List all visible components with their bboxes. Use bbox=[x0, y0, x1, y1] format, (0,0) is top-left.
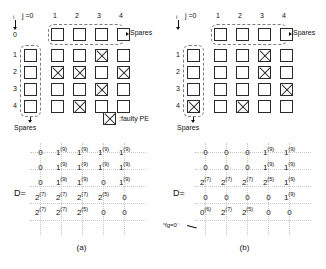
pe-cell[interactable] bbox=[51, 83, 64, 96]
matrix-cell: 1(9) bbox=[114, 174, 135, 189]
pe-cell[interactable] bbox=[280, 100, 293, 113]
matrix-cell: 0 bbox=[216, 189, 237, 204]
pe-cell[interactable] bbox=[73, 49, 86, 62]
col-header-1: 1 bbox=[53, 12, 57, 19]
matrix-cell: 2(7) bbox=[30, 189, 51, 204]
col-header-3: 3 bbox=[97, 12, 101, 19]
spares-row-label: Spares bbox=[130, 29, 152, 36]
pe-cell[interactable] bbox=[258, 28, 271, 41]
pe-cell[interactable] bbox=[51, 100, 64, 113]
pe-cell[interactable] bbox=[236, 28, 249, 41]
matrix-cell: 0 bbox=[216, 144, 237, 159]
caption-b: (b) bbox=[163, 243, 326, 252]
pe-cell-faulty[interactable] bbox=[258, 66, 271, 79]
pe-cell-faulty[interactable] bbox=[236, 100, 249, 113]
matrix-cell: 1(9) bbox=[51, 174, 72, 189]
pe-cell[interactable] bbox=[117, 49, 130, 62]
matrix-cell: 2(7) bbox=[237, 174, 258, 189]
spares-col-label: Spares bbox=[177, 124, 199, 131]
pe-cell[interactable] bbox=[24, 100, 37, 113]
matrix-cell: 1(9) bbox=[279, 159, 300, 174]
matrix-cell: 0 bbox=[30, 159, 51, 174]
matrix-table-b: 0 0 0 1(9) 1(9) 0 0 0 1(9) 1(9) 2(7) 2(7… bbox=[195, 144, 300, 219]
pe-cell[interactable] bbox=[214, 49, 227, 62]
pe-cell[interactable] bbox=[280, 66, 293, 79]
pe-cell[interactable] bbox=[24, 66, 37, 79]
matrix-cell: 2(7) bbox=[51, 189, 72, 204]
pe-cell[interactable] bbox=[214, 66, 227, 79]
pe-cell[interactable] bbox=[236, 83, 249, 96]
pe-cell[interactable] bbox=[214, 83, 227, 96]
pe-cell-faulty[interactable] bbox=[258, 49, 271, 62]
spares-col-label: Spares bbox=[14, 124, 36, 131]
spares-col-arrow-icon bbox=[191, 120, 195, 123]
legend-faulty-cell bbox=[103, 112, 116, 125]
pe-cell[interactable] bbox=[95, 66, 108, 79]
legend: :faulty PE bbox=[103, 112, 149, 125]
pe-cell[interactable] bbox=[73, 83, 86, 96]
matrix-row: 0 1(9) 1(9) 1(9) 1(9) bbox=[30, 159, 135, 174]
matrix-cell: 1(9) bbox=[279, 189, 300, 204]
j-axis-label: j =0 bbox=[22, 12, 33, 19]
pe-array-a: i j =0 1 2 3 4 0 1 2 3 4 bbox=[0, 0, 163, 135]
pe-cell[interactable] bbox=[73, 28, 86, 41]
matrix-cell: 0 bbox=[195, 189, 216, 204]
i-axis-stem bbox=[15, 20, 16, 27]
pe-cell[interactable] bbox=[187, 49, 200, 62]
pe-cell[interactable] bbox=[24, 49, 37, 62]
col-header-4: 4 bbox=[282, 12, 286, 19]
matrix-cell: 1(9) bbox=[279, 144, 300, 159]
matrix-cell: 2(7) bbox=[216, 174, 237, 189]
pe-cell-faulty[interactable] bbox=[117, 66, 130, 79]
row-header-2: 2 bbox=[176, 68, 180, 75]
matrix-row: 0 1(9) 1(9) 1(9) 1(9) bbox=[30, 144, 135, 159]
spares-row-label: Spares bbox=[293, 29, 315, 36]
guide-line bbox=[30, 220, 146, 222]
matrix-area-b: D= 0 0 0 1(9) 1(9) 0 0 0 bbox=[163, 138, 326, 269]
col-header-3: 3 bbox=[260, 12, 264, 19]
matrix-cell: 0 bbox=[216, 159, 237, 174]
matrix-row: 0 0 0 0 1(9) bbox=[195, 189, 300, 204]
col-header-1: 1 bbox=[216, 12, 220, 19]
col-header-4: 4 bbox=[119, 12, 123, 19]
pe-cell[interactable] bbox=[214, 100, 227, 113]
pe-cell-faulty[interactable] bbox=[95, 49, 108, 62]
matrix-cell: 2(5) bbox=[237, 204, 258, 219]
pe-cell[interactable] bbox=[117, 83, 130, 96]
pe-cell-faulty[interactable] bbox=[187, 100, 200, 113]
pe-cell[interactable] bbox=[187, 66, 200, 79]
pe-cell[interactable] bbox=[51, 49, 64, 62]
matrix-row: 0 0 0 1(9) 1(9) bbox=[195, 144, 300, 159]
sfg-annotation: ˢfg=0⁻ bbox=[163, 221, 180, 228]
pe-cell-faulty[interactable] bbox=[280, 83, 293, 96]
matrix-row: 2(7) 2(7) 2(7) 2(5) 1(9) bbox=[195, 174, 300, 189]
pe-cell-faulty[interactable] bbox=[73, 100, 86, 113]
matrix-cell: 0 bbox=[258, 204, 279, 219]
matrix-cell: 2(7) bbox=[51, 204, 72, 219]
sfg-leader-line bbox=[187, 225, 197, 228]
i-axis-arrow bbox=[176, 27, 180, 30]
pe-cell[interactable] bbox=[24, 83, 37, 96]
pe-cell-faulty[interactable] bbox=[95, 83, 108, 96]
pe-cell[interactable] bbox=[187, 83, 200, 96]
pe-cell-faulty[interactable] bbox=[73, 66, 86, 79]
pe-cell[interactable] bbox=[258, 83, 271, 96]
matrix-cell: 1(9) bbox=[72, 144, 93, 159]
pe-cell[interactable] bbox=[280, 49, 293, 62]
matrix-cell: 0 bbox=[93, 204, 114, 219]
row-header-1: 1 bbox=[13, 51, 17, 58]
pe-cell[interactable] bbox=[51, 28, 64, 41]
pe-cell[interactable] bbox=[95, 28, 108, 41]
col-header-2: 2 bbox=[75, 12, 79, 19]
pe-cell[interactable] bbox=[258, 100, 271, 113]
matrix-cell: 0 bbox=[30, 174, 51, 189]
pe-cell[interactable] bbox=[236, 66, 249, 79]
pe-cell[interactable] bbox=[236, 49, 249, 62]
matrix-cell: 2(5) bbox=[72, 204, 93, 219]
spares-row-arrow-icon bbox=[126, 32, 129, 36]
pe-cell-faulty[interactable] bbox=[51, 66, 64, 79]
matrix-cell: 1(9) bbox=[114, 144, 135, 159]
matrix-cell: 2(5) bbox=[258, 174, 279, 189]
i-axis-stem bbox=[178, 20, 179, 27]
pe-cell[interactable] bbox=[214, 28, 227, 41]
